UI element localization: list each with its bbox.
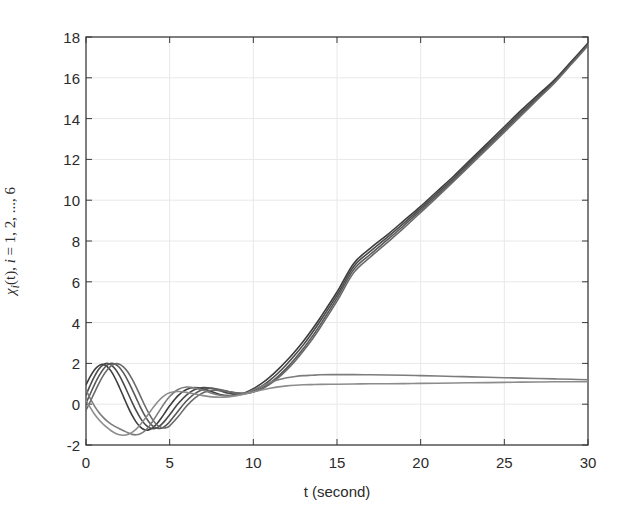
- x-tick-label: 15: [329, 455, 346, 470]
- chart-figure: -2024681012141618 051015202530 t (second…: [0, 0, 621, 520]
- y-tick-label: 6: [36, 274, 80, 289]
- y-tick-label: 18: [36, 30, 80, 45]
- y-axis-label-subscript: i: [8, 285, 22, 288]
- y-tick-label: 0: [36, 397, 80, 412]
- y-tick-label: 2: [36, 356, 80, 371]
- y-tick-label: 10: [36, 193, 80, 208]
- y-axis-label: χi(t), i = 1, 2, ..., 6: [2, 187, 23, 295]
- plot-canvas: [0, 0, 621, 520]
- y-tick-label: 8: [36, 234, 80, 249]
- y-tick-label: 4: [36, 315, 80, 330]
- x-tick-label: 10: [245, 455, 262, 470]
- y-axis-label-arg: (t),: [2, 267, 18, 285]
- x-tick-label: 30: [580, 455, 597, 470]
- x-tick-label: 20: [412, 455, 429, 470]
- y-tick-label: 12: [36, 152, 80, 167]
- y-tick-label: 16: [36, 70, 80, 85]
- y-axis-label-symbol: χ: [2, 288, 18, 295]
- y-axis-label-index-var: i: [2, 259, 18, 263]
- x-tick-label: 25: [496, 455, 513, 470]
- x-tick-label: 5: [165, 455, 173, 470]
- y-tick-label: 14: [36, 111, 80, 126]
- y-tick-label: -2: [36, 438, 80, 453]
- y-axis-label-equals: =: [2, 247, 18, 255]
- x-axis-label: t (second): [304, 483, 371, 500]
- x-tick-label: 0: [82, 455, 90, 470]
- y-axis-label-range: 1, 2, ..., 6: [2, 187, 18, 243]
